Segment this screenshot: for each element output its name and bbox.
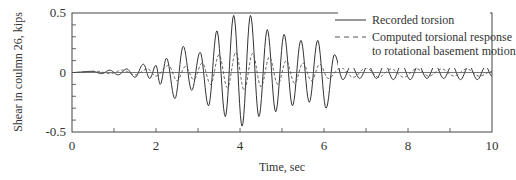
y-axis-title: Shear in coulmn 26, kips (11, 12, 25, 132)
line-chart: 0246810-0.500.5 Time, sec Shear in coulm… (0, 0, 516, 180)
x-tick-label: 0 (69, 138, 76, 153)
legend-label-computed-2: to rotational basement motion (372, 44, 516, 58)
x-tick-label: 10 (486, 138, 499, 153)
x-tick-label: 4 (237, 138, 244, 153)
x-tick-label: 6 (321, 138, 328, 153)
legend-label-computed-1: Computed torsional response (372, 30, 512, 44)
legend-label-recorded: Recorded torsion (372, 13, 454, 27)
y-tick-label: 0.5 (50, 5, 66, 20)
x-tick-label: 8 (405, 138, 412, 153)
y-tick-label: 0 (60, 65, 67, 80)
x-tick-label: 2 (153, 138, 160, 153)
chart-container: 0246810-0.500.5 Time, sec Shear in coulm… (0, 0, 516, 180)
legend: Recorded torsion Computed torsional resp… (335, 10, 516, 68)
y-tick-label: -0.5 (45, 124, 66, 139)
x-axis-title: Time, sec (259, 160, 305, 174)
